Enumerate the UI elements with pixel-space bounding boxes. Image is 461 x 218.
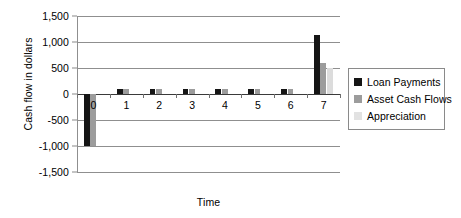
legend-label: Appreciation xyxy=(367,110,426,122)
x-tick-label: 2 xyxy=(156,99,162,111)
x-tick-label: 0 xyxy=(91,99,97,111)
x-tick-label: 6 xyxy=(288,99,294,111)
x-tick-label: 4 xyxy=(222,99,228,111)
y-tick-label: 0 xyxy=(63,88,69,100)
y-tick-label: -1,500 xyxy=(39,166,69,178)
legend-swatch-icon xyxy=(354,112,362,120)
x-tick-mark xyxy=(274,94,275,98)
legend-swatch-icon xyxy=(354,78,362,86)
x-tick-mark xyxy=(241,94,242,98)
y-tick-label: -500 xyxy=(48,114,69,126)
y-tick-label: -1,000 xyxy=(39,140,69,152)
x-tick-mark xyxy=(209,94,210,98)
x-axis-tick-labels: 01234567 xyxy=(77,0,340,218)
x-tick-mark xyxy=(340,94,341,98)
legend-swatch-icon xyxy=(354,95,362,103)
x-axis-title: Time xyxy=(77,196,340,208)
x-tick-mark xyxy=(143,94,144,98)
y-tick-label: 1,500 xyxy=(42,10,69,22)
legend-item[interactable]: Loan Payments xyxy=(354,74,440,90)
x-tick-mark xyxy=(110,94,111,98)
x-tick-label: 3 xyxy=(189,99,195,111)
legend-item[interactable]: Appreciation xyxy=(354,108,440,124)
legend-label: Asset Cash Flows xyxy=(367,93,452,105)
x-tick-mark xyxy=(176,94,177,98)
x-tick-mark xyxy=(77,94,78,98)
x-tick-label: 7 xyxy=(321,99,327,111)
y-axis-tick-labels: 1,5001,0005000-500-1,000-1,500 xyxy=(0,0,73,218)
chart-legend: Loan PaymentsAsset Cash FlowsAppreciatio… xyxy=(348,68,445,130)
x-tick-mark xyxy=(307,94,308,98)
x-tick-label: 5 xyxy=(255,99,261,111)
y-tick-label: 1,000 xyxy=(42,36,69,48)
legend-item[interactable]: Asset Cash Flows xyxy=(354,91,440,107)
legend-label: Loan Payments xyxy=(367,76,441,88)
cash-flow-bar-chart: Cash flow in dollars 1,5001,0005000-500-… xyxy=(0,0,461,218)
x-tick-label: 1 xyxy=(123,99,129,111)
y-tick-label: 500 xyxy=(51,62,69,74)
